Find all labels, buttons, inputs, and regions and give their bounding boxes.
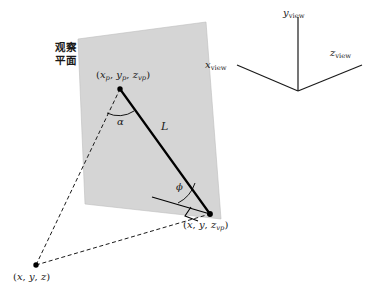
angle-label-alpha: α xyxy=(117,117,124,127)
view-plane-label: 观察 平面 xyxy=(55,41,76,67)
projected-z-sub: vp xyxy=(138,74,146,82)
axis-x-subscript: view xyxy=(211,64,227,72)
point-label-projected: (xp, yp, zvp) xyxy=(96,70,150,82)
point-label-world: (x, y, z) xyxy=(13,272,50,282)
view-plane-label-line2: 平面 xyxy=(55,54,76,67)
paren-close: ) xyxy=(146,69,150,80)
axis-label-y-view: yview xyxy=(283,8,305,20)
axis-line-x-view xyxy=(237,65,298,91)
axis-y-subscript: view xyxy=(289,12,305,20)
point-label-on-plane: (x, y, zvp) xyxy=(183,220,228,232)
view-plane-shape xyxy=(78,22,221,219)
axis-label-x-view: xview xyxy=(205,60,227,72)
paren-close: ) xyxy=(224,219,228,230)
point-dot-world xyxy=(33,262,38,267)
point-dot-projected xyxy=(117,86,122,91)
angle-label-phi: ϕ xyxy=(176,182,183,192)
axis-line-z-view xyxy=(298,65,362,91)
axis-label-z-view: zview xyxy=(330,48,351,60)
point-dot-on-plane xyxy=(207,211,213,217)
paren-close: ) xyxy=(46,271,50,282)
view-plane-label-line1: 观察 xyxy=(55,41,76,54)
axis-z-subscript: view xyxy=(335,52,351,60)
length-label-L: L xyxy=(161,121,168,132)
